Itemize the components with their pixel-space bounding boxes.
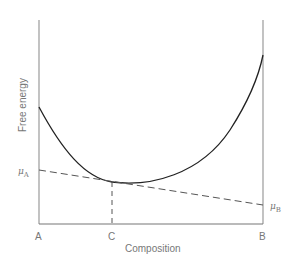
free-energy-diagram: [0, 0, 299, 266]
x-tick-c: C: [108, 232, 115, 242]
y-axis-label: Free energy: [17, 78, 28, 132]
mu-b-label: μB: [270, 202, 281, 214]
mu-a-subscript: A: [24, 171, 29, 179]
x-tick-b: B: [259, 232, 266, 242]
mu-b-subscript: B: [276, 206, 281, 214]
free-energy-curve: [39, 55, 263, 183]
x-tick-a: A: [35, 232, 42, 242]
mu-a-label: μA: [18, 167, 29, 179]
x-axis-label: Composition: [125, 244, 181, 254]
tangent-line: [39, 170, 263, 205]
